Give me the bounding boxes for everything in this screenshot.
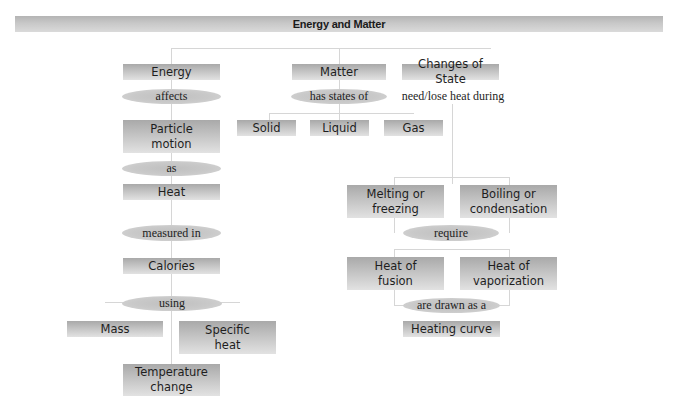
node-mass: Mass: [67, 321, 163, 337]
connector-phase-right: [509, 177, 510, 185]
connector-top-matter: [339, 48, 340, 64]
link-as: as: [122, 161, 221, 176]
link-need-lose-heat-during: need/lose heat during: [398, 89, 508, 104]
node-heat-of-fusion: Heat of fusion: [347, 257, 444, 290]
connector-boiling-require: [509, 218, 510, 233]
node-liquid: Liquid: [310, 120, 369, 136]
connector-phase-left: [394, 177, 395, 185]
node-calories: Calories: [123, 258, 220, 274]
connector-top: [171, 48, 491, 49]
node-energy: Energy: [123, 64, 220, 80]
node-changes-of-state: Changes of State: [402, 64, 499, 80]
connector-require-bar: [394, 249, 509, 250]
link-are-drawn-as-a: are drawn as a: [403, 298, 500, 313]
node-solid: Solid: [237, 120, 296, 136]
node-melting-or-freezing: Melting or freezing: [347, 185, 444, 218]
node-heat: Heat: [123, 184, 220, 200]
diagram-title-bar: Energy and Matter: [15, 16, 663, 32]
link-using: using: [122, 296, 222, 311]
connector-melting-require: [394, 218, 395, 233]
connector-vapor-drawn: [509, 290, 510, 306]
node-particle-motion: Particle motion: [123, 120, 220, 153]
diagram-title: Energy and Matter: [293, 18, 386, 30]
connector-phase-bar: [394, 177, 509, 178]
connector-require-vapor: [509, 249, 510, 257]
connector-fusion-drawn: [394, 290, 395, 306]
node-boiling-or-condensation: Boiling or condensation: [460, 185, 557, 218]
node-temperature-change: Temperature change: [123, 364, 220, 396]
connector-states-bar: [269, 113, 414, 114]
connector-top-energy: [171, 48, 172, 64]
link-measured-in: measured in: [122, 225, 221, 241]
node-gas: Gas: [384, 120, 443, 136]
node-matter: Matter: [292, 64, 386, 80]
link-require: require: [403, 225, 499, 241]
link-has-states-of: has states of: [291, 89, 387, 104]
node-specific-heat: Specific heat: [179, 321, 276, 354]
node-heat-of-vaporization: Heat of vaporization: [460, 257, 557, 290]
connector-changes-down: [452, 104, 453, 184]
connector-require-fusion: [394, 249, 395, 257]
link-affects: affects: [122, 89, 221, 104]
connector-state-solid: [269, 113, 270, 120]
node-heating-curve: Heating curve: [403, 321, 500, 337]
